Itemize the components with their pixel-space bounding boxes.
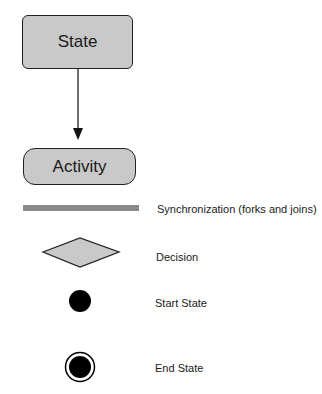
end-state-icon [60,347,100,387]
legend-label-decision: Decision [156,251,198,263]
legend-label-synchronization: Synchronization (forks and joins) [157,203,317,215]
decision-diamond-icon [40,234,124,270]
legend-label-start-state: Start State [155,297,207,309]
synchronization-bar-icon [23,205,139,211]
transition-arrow [0,0,322,150]
arrow-down-icon [73,128,83,140]
start-state-icon [60,281,100,321]
activity-label: Activity [53,157,107,177]
legend-label-end-state: End State [155,362,203,374]
activity-node: Activity [23,148,136,185]
